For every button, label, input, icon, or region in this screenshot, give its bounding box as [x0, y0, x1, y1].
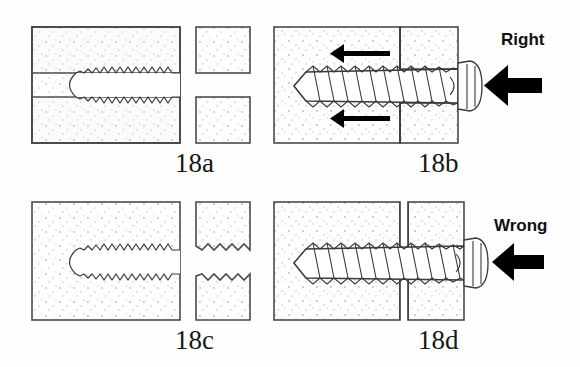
panel-18d — [272, 200, 502, 322]
panel-label-18a: 18a — [175, 148, 214, 179]
panel-18a — [30, 25, 250, 145]
panel-18c — [30, 200, 250, 322]
annotation-right: Right — [501, 30, 544, 50]
screw-18b — [294, 66, 458, 107]
fragment-near-lower-18a — [196, 97, 250, 143]
annotation-wrong: Wrong — [494, 216, 548, 236]
panel-label-18c: 18c — [175, 325, 214, 356]
screw-18d — [294, 243, 464, 284]
insertion-arrow-18b — [484, 65, 542, 106]
screw-head-18b — [458, 61, 482, 111]
panel-label-18b: 18b — [418, 148, 459, 179]
fragment-near-upper-18a — [196, 27, 250, 73]
insertion-arrow-18d — [492, 243, 544, 281]
panel-18b — [272, 25, 502, 145]
fragment-near-upper-18c — [196, 202, 250, 250]
fragment-near-lower-18c — [196, 274, 250, 320]
panel-label-18d: 18d — [418, 325, 459, 356]
screw-head-18d — [464, 238, 488, 288]
figure-container: 18a — [0, 0, 580, 367]
